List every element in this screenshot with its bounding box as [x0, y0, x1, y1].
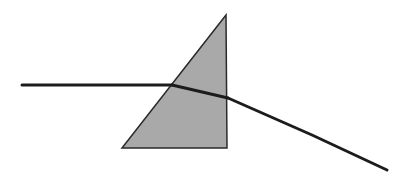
emergent-light-ray	[228, 98, 387, 170]
prism-refraction-diagram	[0, 0, 405, 179]
prism	[122, 15, 227, 148]
